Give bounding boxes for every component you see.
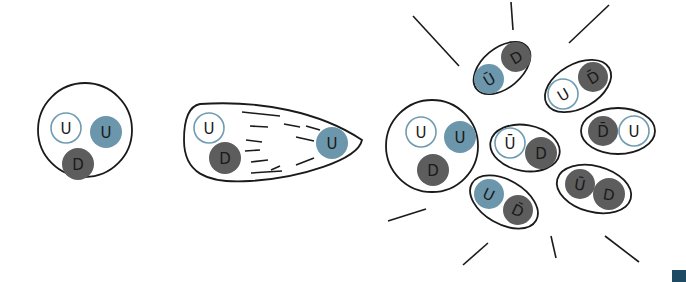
quark-label: U <box>629 123 640 141</box>
anti-down-quark-dark: D̄ <box>578 62 608 92</box>
down-quark-dark: D <box>62 148 94 180</box>
down-quark-dark: D <box>209 142 241 174</box>
proton-after-collision: UUD <box>386 100 478 192</box>
meson-jets: ŪDUD̄D̄UŪDUD̄ŪD <box>461 31 655 239</box>
quark-label: D̄ <box>597 122 609 141</box>
anti-down-quark-dark: D̄ <box>588 116 618 146</box>
up-quark-blue: U <box>444 121 476 153</box>
down-quark-dark: D <box>593 178 625 210</box>
quark-label: U <box>101 124 112 142</box>
burst-line <box>511 2 513 30</box>
meson-anti-u-d-top: ŪD <box>464 31 540 104</box>
quark-label: Ū <box>505 134 516 153</box>
proton: UUD <box>38 83 132 180</box>
up-quark-outline: U <box>619 116 649 146</box>
up-quark-blue: U <box>90 116 122 148</box>
burst-line <box>569 5 609 43</box>
up-quark-outline: U <box>194 113 224 143</box>
anti-up-quark-dark: Ū <box>565 169 595 199</box>
burst-line <box>463 243 488 265</box>
meson-boundary <box>464 31 540 104</box>
quark-label: D <box>219 150 231 168</box>
quark-label: D <box>535 145 547 163</box>
up-quark-outline: U <box>548 79 578 109</box>
meson-anti-u-d-center: ŪD <box>487 119 564 176</box>
anti-up-quark-outline: Ū <box>495 128 525 158</box>
meson-boundary <box>461 164 547 239</box>
up-quark-outline: U <box>406 117 436 147</box>
up-quark-outline: U <box>51 113 81 143</box>
hadronization-diagram: UUDUDUUUD ŪDUD̄D̄UŪDUD̄ŪD <box>0 0 686 282</box>
burst-line <box>551 236 556 258</box>
quark-label: D <box>72 156 84 174</box>
anti-down-quark-dark: D̄ <box>503 195 533 225</box>
up-quark-blue: U <box>316 127 348 159</box>
corner-square-marker <box>672 270 686 282</box>
meson-anti-u-d-bottom-right: ŪD <box>551 157 636 221</box>
burst-line <box>605 236 639 262</box>
quark-label: D <box>427 162 439 180</box>
down-quark-dark: D <box>501 42 531 72</box>
down-quark-dark: D <box>525 137 557 169</box>
down-quark-dark: D <box>417 154 449 186</box>
burst-line <box>413 16 459 66</box>
meson-anti-d-u-right: D̄U <box>581 108 655 154</box>
quark-label: U <box>204 120 215 138</box>
quark-label: U <box>455 129 466 147</box>
proton-stages: UUDUDUUUD <box>38 83 478 192</box>
quark-label: U <box>61 120 72 138</box>
anti-up-quark-blue: Ū <box>474 64 504 94</box>
meson-u-anti-d-bottom: UD̄ <box>461 164 547 239</box>
burst-line <box>388 209 426 221</box>
motion-streak <box>250 126 268 127</box>
quark-label: U <box>416 124 427 142</box>
quark-label: U <box>327 135 338 153</box>
up-quark-blue: U <box>474 179 504 209</box>
motion-streak <box>245 150 260 151</box>
stretched-proton: UDU <box>184 103 362 181</box>
